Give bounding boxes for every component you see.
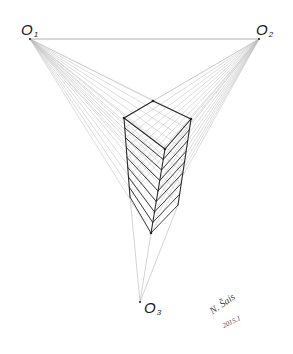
construction-lines: [30, 39, 259, 302]
vanishing-point-label-o3: O3: [144, 300, 161, 317]
vanishing-point-label-o1: O1: [21, 22, 38, 39]
vanishing-point-label-o2: O2: [256, 22, 273, 39]
